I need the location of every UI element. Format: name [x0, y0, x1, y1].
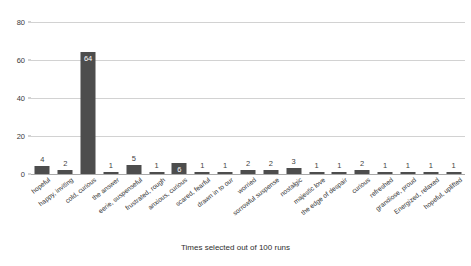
bar-value-label: 64 [84, 54, 92, 63]
bar-slot[interactable]: 1 [419, 22, 442, 174]
bar-chart: 020406080 42641516112231121111 hopefulha… [0, 0, 471, 266]
bar-slot[interactable]: 2 [54, 22, 77, 174]
bar-value-label: 1 [406, 161, 410, 170]
bar-slot[interactable]: 4 [31, 22, 54, 174]
y-tick-label: 0 [21, 170, 25, 179]
bar[interactable] [446, 172, 461, 174]
bar[interactable] [309, 172, 324, 174]
bar-slot[interactable]: 1 [374, 22, 397, 174]
y-tick-label: 60 [17, 56, 25, 65]
bar-slot[interactable]: 5 [122, 22, 145, 174]
bar-value-label: 1 [200, 161, 204, 170]
y-tick-label: 80 [17, 18, 25, 27]
bar-value-label: 2 [246, 159, 250, 168]
bar-value-label: 1 [383, 161, 387, 170]
bar[interactable] [332, 172, 347, 174]
bar-slot[interactable]: 3 [282, 22, 305, 174]
bar-slot[interactable]: 1 [396, 22, 419, 174]
bar-slot[interactable]: 6 [168, 22, 191, 174]
bar-slot[interactable]: 2 [351, 22, 374, 174]
bar-slot[interactable]: 1 [328, 22, 351, 174]
bar[interactable] [195, 172, 210, 174]
bar[interactable] [240, 170, 255, 174]
bar-value-label: 1 [337, 161, 341, 170]
bars-group: 42641516112231121111 [31, 22, 465, 174]
bar[interactable] [35, 166, 50, 174]
bar-value-label: 2 [63, 159, 67, 168]
bar-slot[interactable]: 1 [145, 22, 168, 174]
bar[interactable] [423, 172, 438, 174]
bar-value-label: 2 [269, 159, 273, 168]
bar-value-label: 1 [155, 161, 159, 170]
bar[interactable] [286, 168, 301, 174]
x-axis-title: Times selected out of 100 runs [0, 243, 471, 252]
bar[interactable] [103, 172, 118, 174]
bar-value-label: 2 [360, 159, 364, 168]
bar[interactable] [81, 52, 96, 174]
plot-area: 020406080 42641516112231121111 [31, 22, 465, 174]
y-tick-label: 40 [17, 94, 25, 103]
bar-slot[interactable]: 1 [305, 22, 328, 174]
bar-slot[interactable]: 2 [259, 22, 282, 174]
bar-value-label: 4 [40, 155, 44, 164]
bar-value-label: 3 [292, 157, 296, 166]
bar[interactable] [378, 172, 393, 174]
bar[interactable] [218, 172, 233, 174]
bar[interactable] [149, 172, 164, 174]
bar[interactable] [355, 170, 370, 174]
bar[interactable] [58, 170, 73, 174]
y-tick-label: 20 [17, 132, 25, 141]
bar-slot[interactable]: 1 [100, 22, 123, 174]
bar[interactable] [263, 170, 278, 174]
bar-slot[interactable]: 64 [77, 22, 100, 174]
x-axis-labels-group: hopefulhappy, invitingcold, curiousthe a… [31, 176, 465, 238]
bar-value-label: 1 [314, 161, 318, 170]
bar-value-label: 5 [132, 154, 136, 163]
bar-slot[interactable]: 1 [191, 22, 214, 174]
bar-slot[interactable]: 1 [214, 22, 237, 174]
gridline-0 [31, 174, 465, 175]
bar-slot[interactable]: 2 [237, 22, 260, 174]
bar-value-label: 1 [109, 161, 113, 170]
bar-value-label: 6 [177, 165, 181, 174]
bar[interactable] [400, 172, 415, 174]
bar-value-label: 1 [223, 161, 227, 170]
bar[interactable] [126, 165, 141, 175]
bar-value-label: 1 [451, 161, 455, 170]
bar-value-label: 1 [429, 161, 433, 170]
bar-slot[interactable]: 1 [442, 22, 465, 174]
